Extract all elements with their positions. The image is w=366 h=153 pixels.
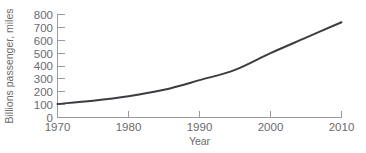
- y-tick-label-700: 700: [34, 22, 53, 34]
- chart-container: Billions passenger, miles 800 700 600 50…: [0, 0, 366, 153]
- y-tick-label-500: 500: [34, 48, 53, 60]
- x-axis-title: Year: [189, 135, 211, 147]
- line-chart: Billions passenger, miles 800 700 600 50…: [0, 0, 366, 153]
- x-tick-label-2010: 2010: [329, 121, 355, 133]
- y-tick-label-200: 200: [34, 86, 53, 98]
- x-tick-label-1970: 1970: [45, 121, 71, 133]
- y-tick-label-400: 400: [34, 60, 53, 72]
- y-tick-label-300: 300: [34, 73, 53, 85]
- y-axis-title: Billions passenger, miles: [3, 9, 15, 124]
- x-tick-label-2000: 2000: [258, 121, 284, 133]
- y-tick-label-800: 800: [34, 9, 53, 21]
- y-tick-label-600: 600: [34, 35, 53, 47]
- x-tick-label-1980: 1980: [116, 121, 142, 133]
- x-tick-label-1990: 1990: [187, 121, 213, 133]
- data-series-line: [58, 22, 342, 104]
- y-tick-label-100: 100: [34, 99, 53, 111]
